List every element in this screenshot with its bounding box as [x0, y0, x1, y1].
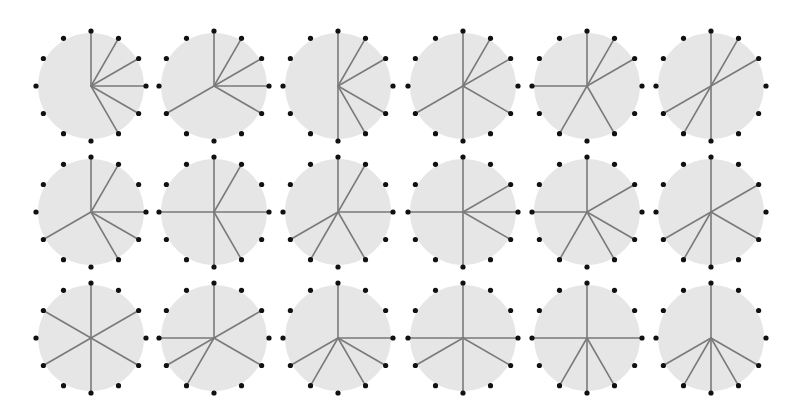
clock-dot — [288, 56, 293, 61]
clock-dot — [308, 36, 313, 41]
clock-dot — [612, 36, 617, 41]
clock-dot — [488, 131, 493, 136]
clock-dot — [584, 28, 589, 33]
clock-dot — [653, 83, 658, 88]
clock-dot — [61, 36, 66, 41]
clock-dot — [280, 335, 285, 340]
clock-dot — [184, 288, 189, 293]
clock-dot — [211, 390, 216, 395]
clock-dot — [413, 182, 418, 187]
clock-dot — [433, 162, 438, 167]
clock-dot — [681, 383, 686, 388]
clock-dot — [259, 56, 264, 61]
clock-dot — [280, 83, 285, 88]
clock-dot — [41, 308, 46, 313]
clock-dot — [88, 264, 93, 269]
clock-dot — [433, 257, 438, 262]
clock-dot — [557, 162, 562, 167]
clock-dot — [413, 308, 418, 313]
clock-dot — [488, 383, 493, 388]
clock-dot — [557, 383, 562, 388]
clock-dot — [515, 335, 520, 340]
clock-dot — [763, 335, 768, 340]
clock-dot — [736, 257, 741, 262]
clock-dot — [632, 111, 637, 116]
clock-dot — [460, 264, 465, 269]
clock-dot — [632, 308, 637, 313]
clock-dot — [308, 288, 313, 293]
clock-dot — [184, 162, 189, 167]
clock-dot — [211, 280, 216, 285]
clock-dot — [61, 257, 66, 262]
clock-dot — [584, 154, 589, 159]
clock-dot — [661, 363, 666, 368]
clock-dot — [211, 138, 216, 143]
clock-dot — [537, 56, 542, 61]
clock-dot — [639, 335, 644, 340]
clock-dot — [363, 288, 368, 293]
clock-dot — [266, 209, 271, 214]
clock-dot — [508, 56, 513, 61]
clock-dot — [288, 308, 293, 313]
clock-dot — [41, 56, 46, 61]
clock-dot — [736, 162, 741, 167]
clock-dot — [557, 36, 562, 41]
clock-dot — [529, 209, 534, 214]
clock-dot — [537, 237, 542, 242]
clock-dot — [383, 111, 388, 116]
clock-dot — [239, 288, 244, 293]
clock-dot — [383, 56, 388, 61]
clock-dot — [335, 28, 340, 33]
spoke-circle — [280, 154, 395, 269]
clock-dot — [557, 288, 562, 293]
spoke-circle — [156, 280, 271, 395]
clock-dot — [433, 36, 438, 41]
clock-dot — [537, 308, 542, 313]
clock-dot — [708, 28, 713, 33]
spoke-circle — [529, 28, 644, 143]
clock-dot — [488, 36, 493, 41]
clock-dot — [164, 363, 169, 368]
clock-dot — [259, 363, 264, 368]
clock-dot — [335, 264, 340, 269]
clock-dot — [363, 36, 368, 41]
clock-dot — [756, 111, 761, 116]
clock-dot — [460, 280, 465, 285]
clock-dot — [390, 83, 395, 88]
clock-dot — [632, 363, 637, 368]
clock-dot — [288, 182, 293, 187]
clock-dot — [61, 383, 66, 388]
clock-dot — [708, 264, 713, 269]
clock-dot — [763, 209, 768, 214]
clock-dot — [405, 83, 410, 88]
spoke-circle — [280, 28, 395, 143]
clock-dot — [61, 131, 66, 136]
clock-dot — [632, 237, 637, 242]
clock-dot — [661, 111, 666, 116]
clock-dot — [116, 257, 121, 262]
clock-dot — [33, 335, 38, 340]
spoke-circle — [653, 154, 768, 269]
clock-dot — [736, 383, 741, 388]
spoke-circle — [33, 280, 148, 395]
spoke-circle — [33, 154, 148, 269]
clock-dot — [639, 209, 644, 214]
clock-dot — [116, 36, 121, 41]
spoke-circle — [529, 154, 644, 269]
spoke-circle — [653, 280, 768, 395]
clock-dot — [584, 390, 589, 395]
clock-dot — [383, 182, 388, 187]
clock-dot — [335, 154, 340, 159]
clock-dot — [156, 335, 161, 340]
clock-dot — [708, 390, 713, 395]
clock-dot — [308, 162, 313, 167]
clock-dot — [508, 308, 513, 313]
clock-dot — [136, 237, 141, 242]
clock-dot — [363, 383, 368, 388]
clock-dot — [460, 138, 465, 143]
clock-dot — [88, 28, 93, 33]
clock-dot — [143, 83, 148, 88]
clock-dot — [88, 280, 93, 285]
spoke-circle-grid — [0, 0, 801, 416]
clock-dot — [239, 383, 244, 388]
